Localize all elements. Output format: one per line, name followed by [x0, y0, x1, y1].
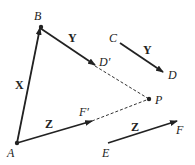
vector-label-z-from-a: Z: [45, 117, 53, 131]
vector-label-x: X: [15, 78, 24, 92]
label-d-prime: D′: [98, 55, 111, 69]
point-p-dot: [147, 97, 151, 101]
label-e: E: [101, 146, 110, 160]
label-a: A: [6, 146, 15, 160]
point-a-dot: [15, 141, 19, 145]
label-c: C: [109, 31, 118, 45]
vector-y-arrow-cd: [120, 43, 163, 72]
vector-label-y-cd: Y: [143, 43, 152, 57]
diagram-canvas: A B D′ F′ P C D E F X Y Z Y Z: [0, 0, 195, 165]
vector-z-arrow-ef: [108, 121, 177, 143]
label-f: F: [175, 123, 184, 137]
label-b: B: [34, 9, 42, 23]
label-f-prime: F′: [78, 105, 89, 119]
vector-label-z-ef: Z: [131, 120, 139, 134]
vector-z-arrow-from-a: [17, 121, 92, 143]
label-d: D: [167, 68, 177, 82]
dashed-line-dprime-p: [95, 66, 149, 99]
vector-label-y-from-b: Y: [68, 31, 77, 45]
label-p: P: [154, 93, 163, 107]
point-b-dot: [39, 25, 43, 29]
vector-diagram: A B D′ F′ P C D E F X Y Z Y Z: [0, 0, 195, 165]
dashed-line-fprime-p: [92, 99, 149, 121]
